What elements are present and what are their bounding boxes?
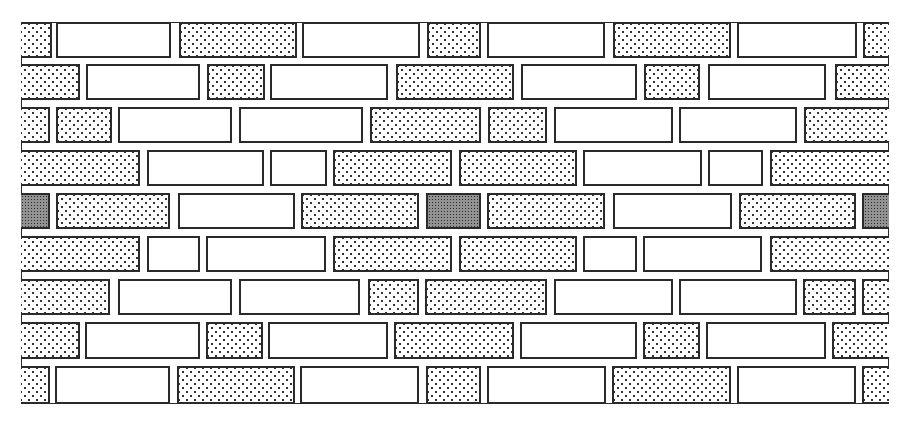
brick-plain [554, 107, 673, 143]
brick-plain [706, 322, 826, 359]
brick-plain [302, 22, 420, 58]
brick-dotted [370, 107, 481, 143]
brick-dotted [368, 279, 419, 315]
brick-plain [268, 322, 388, 359]
brick-dotted [396, 64, 514, 100]
brick-plain [708, 150, 763, 186]
brick-plain [118, 279, 232, 315]
brick-dotted [427, 22, 481, 58]
brick-dotted [56, 107, 112, 143]
brick-dotted [459, 236, 577, 272]
brick-dotted [21, 366, 50, 404]
brick-dotted [770, 236, 889, 272]
brick-dotted [770, 150, 889, 186]
brick-plain [520, 322, 637, 359]
brick-dotted [487, 193, 605, 229]
brick-dotted [333, 150, 452, 186]
brick-plain [270, 64, 388, 100]
brick-plain [55, 366, 170, 404]
brick-plain [679, 107, 797, 143]
brick-dotted [804, 107, 889, 143]
brick-dotted [394, 322, 514, 359]
brick-dotted [739, 193, 856, 229]
brick-dotted [207, 64, 265, 100]
brick-dotted [862, 366, 889, 404]
brick-dotted [206, 322, 263, 359]
brick-wall-diagram [0, 0, 901, 424]
brick-plain [86, 64, 200, 100]
brick-plain [708, 64, 826, 100]
brick-plain [487, 366, 606, 404]
brick-dotted [863, 22, 889, 58]
brick-dotted [21, 236, 140, 272]
brick-plain [270, 150, 327, 186]
brick-plain [56, 22, 171, 58]
brick-dotted [21, 150, 140, 186]
brick-dense [21, 193, 50, 229]
brick-dotted [613, 22, 731, 58]
brick-dotted [21, 322, 80, 359]
brick-dotted [333, 236, 452, 272]
brick-dotted [803, 279, 856, 315]
brick-plain [521, 64, 637, 100]
brick-dotted [21, 64, 80, 100]
brick-dotted [862, 279, 889, 315]
brick-dotted [488, 107, 547, 143]
brick-plain [118, 107, 232, 143]
brick-dotted [21, 22, 52, 58]
brick-dotted [835, 64, 889, 100]
brick-dotted [832, 322, 889, 359]
brick-plain [737, 22, 857, 58]
brick-plain [583, 236, 637, 272]
brick-dotted [177, 366, 295, 404]
brick-dotted [459, 150, 577, 186]
brick-plain [300, 366, 419, 404]
brick-dotted [179, 22, 297, 58]
brick-plain [487, 22, 605, 58]
brick-dense [862, 193, 889, 229]
brick-dotted [301, 193, 419, 229]
brick-plain [679, 279, 797, 315]
brick-plain [239, 279, 360, 315]
brick-plain [554, 279, 673, 315]
brick-dotted [21, 107, 50, 143]
brick-plain [85, 322, 200, 359]
brick-dotted [425, 279, 547, 315]
brick-dotted [56, 193, 170, 229]
brick-plain [613, 193, 732, 229]
brick-dotted [643, 322, 700, 359]
brick-dotted [21, 279, 110, 315]
brick-plain [239, 107, 363, 143]
brick-dotted [426, 366, 481, 404]
brick-plain [147, 236, 200, 272]
brick-plain [178, 193, 295, 229]
brick-plain [583, 150, 702, 186]
brick-plain [643, 236, 762, 272]
brick-plain [147, 150, 264, 186]
brick-dotted [644, 64, 700, 100]
brick-dotted [612, 366, 731, 404]
brick-plain [206, 236, 326, 272]
brick-dense [426, 193, 481, 229]
brick-plain [737, 366, 856, 404]
